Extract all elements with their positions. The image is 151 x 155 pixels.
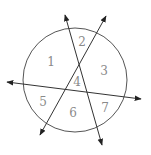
region-label-1: 1: [47, 55, 55, 69]
region-label-3: 3: [100, 64, 108, 78]
circle-regions-diagram: 1 2 3 4 5 6 7: [0, 0, 151, 155]
region-label-5: 5: [39, 95, 47, 109]
region-label-6: 6: [69, 106, 77, 120]
region-label-4: 4: [73, 75, 81, 89]
region-label-2: 2: [78, 35, 86, 49]
region-label-7: 7: [101, 101, 109, 115]
